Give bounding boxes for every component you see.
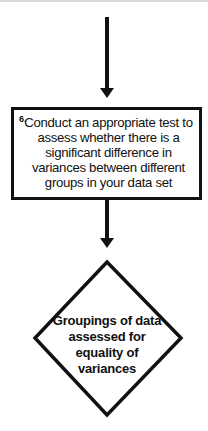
step-description: Conduct an appropriate test to assess wh… <box>22 115 195 190</box>
step-box: 6. Conduct an appropriate test to assess… <box>11 107 202 200</box>
decision-label: Groupings of data assessed for equality … <box>50 313 164 377</box>
arrow-into-step-box <box>100 17 114 98</box>
arrow-into-decision <box>100 199 114 248</box>
